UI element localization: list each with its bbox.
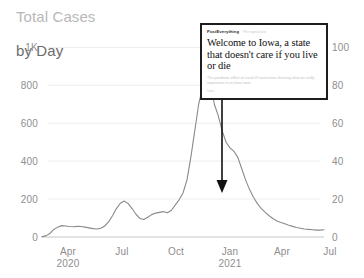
- x-axis-tick-year: 2020: [56, 258, 79, 269]
- x-axis-tick-oct-2020: Oct: [146, 246, 206, 258]
- x-axis-tick-label: Apr: [274, 246, 290, 257]
- y-axis-left-tick-600: 600: [4, 118, 38, 129]
- annotation-card: PostEverything · Perspective Welcome to …: [200, 23, 328, 100]
- data-line-cases-per-day: [42, 77, 324, 237]
- y-axis-right-tick-80: 80: [332, 80, 364, 91]
- y-axis-right-tick-40: 40: [332, 156, 364, 167]
- annotation-kicker: PostEverything · Perspective: [207, 29, 321, 35]
- x-axis-tick-jan-2021: Jan 2021: [200, 246, 260, 270]
- x-axis-tick-jul-2021: Jul: [300, 246, 360, 258]
- y-axis-right-tick-100: 100: [332, 42, 364, 53]
- x-axis-tick-label: Oct: [168, 246, 184, 257]
- y-axis-right-tick-20: 20: [332, 194, 364, 205]
- chart-figure: Total Cases by Day 1K 800 600 400 200 0 …: [0, 0, 364, 278]
- annotation-byline: Iowa: [207, 89, 321, 94]
- y-axis-left-tick-0: 0: [4, 232, 38, 243]
- annotation-kicker-tag: Perspective: [243, 29, 266, 34]
- x-axis-tick-year: 2021: [218, 258, 241, 269]
- y-axis-right-tick-60: 60: [332, 118, 364, 129]
- y-axis-left-tick-200: 200: [4, 194, 38, 205]
- x-axis-tick-jul-2020: Jul: [92, 246, 152, 258]
- y-axis-left-tick-400: 400: [4, 156, 38, 167]
- annotation-subhead: The pandemic effect of covid-19 restrict…: [207, 76, 321, 86]
- x-axis-tick-label: Jan: [222, 246, 239, 257]
- annotation-kicker-section: PostEverything: [207, 29, 239, 34]
- y-axis-right-tick-0: 0: [332, 232, 364, 243]
- x-axis-tick-label: Jul: [115, 246, 128, 257]
- annotation-headline: Welcome to Iowa, a state that doesn't ca…: [207, 37, 321, 72]
- y-axis-left-tick-800: 800: [4, 80, 38, 91]
- annotation-kicker-separator: ·: [240, 29, 242, 34]
- x-axis-tick-apr-2020: Apr 2020: [38, 246, 98, 270]
- x-axis-tick-label: Apr: [60, 246, 76, 257]
- x-axis-tick-label: Jul: [323, 246, 336, 257]
- y-axis-left-tick-1k: 1K: [4, 42, 38, 53]
